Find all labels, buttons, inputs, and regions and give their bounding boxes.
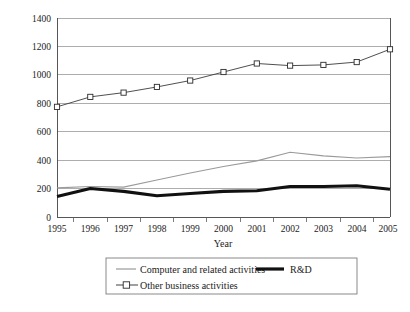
gridlines <box>57 18 390 189</box>
xtick-label: 2004 <box>347 224 366 234</box>
xtick-label: 1995 <box>48 224 67 234</box>
ytick-label: 1400 <box>32 14 51 24</box>
xtick-label: 1997 <box>114 224 133 234</box>
xtick-label: 1999 <box>181 224 200 234</box>
data-point-marker <box>188 78 193 83</box>
legend-label-other: Other business activities <box>140 280 238 291</box>
ytick-label: 1000 <box>32 70 51 80</box>
series-markers-other-business-activities <box>54 47 392 110</box>
y-axis-labels: 1400 1200 1000 800 600 400 200 0 <box>32 14 51 223</box>
ytick-label: 600 <box>37 127 52 137</box>
data-point-marker <box>154 84 159 89</box>
ytick-label: 200 <box>37 184 52 194</box>
x-axis-labels: 1995 1996 1997 1998 1999 2000 2001 2002 … <box>48 224 398 234</box>
xtick-label: 2001 <box>247 224 266 234</box>
legend-label-rd: R&D <box>290 264 312 275</box>
chart-figure: 1400 1200 1000 800 600 400 200 0 1995 19… <box>0 0 410 312</box>
ytick-label: 1200 <box>32 42 51 52</box>
data-point-marker <box>88 94 93 99</box>
data-point-marker <box>121 90 126 95</box>
series-line-other-business-activities <box>57 49 390 107</box>
line-chart-canvas: 1400 1200 1000 800 600 400 200 0 1995 19… <box>0 0 410 312</box>
legend-square-marker-icon <box>123 282 129 288</box>
ytick-label: 400 <box>37 156 52 166</box>
data-point-marker <box>54 104 59 109</box>
xtick-label: 2002 <box>281 224 300 234</box>
data-point-marker <box>387 47 392 52</box>
x-tickmarks <box>74 217 374 222</box>
data-point-marker <box>288 63 293 68</box>
data-point-marker <box>354 59 359 64</box>
xtick-label: 2003 <box>314 224 333 234</box>
xtick-label: 1996 <box>81 224 100 234</box>
legend-label-computer: Computer and related activities <box>140 264 265 275</box>
chart-legend: Computer and related activities R&D Othe… <box>106 258 357 294</box>
ytick-label: 800 <box>37 99 52 109</box>
data-point-marker <box>321 62 326 67</box>
series-line-computer-and-related-activities <box>57 152 390 188</box>
data-point-marker <box>254 61 259 66</box>
xtick-label: 2000 <box>214 224 233 234</box>
xtick-label: 1998 <box>148 224 167 234</box>
xtick-label: 2005 <box>379 224 398 234</box>
data-point-marker <box>221 69 226 74</box>
ytick-label: 0 <box>46 213 51 223</box>
x-axis-title: Year <box>214 238 233 249</box>
